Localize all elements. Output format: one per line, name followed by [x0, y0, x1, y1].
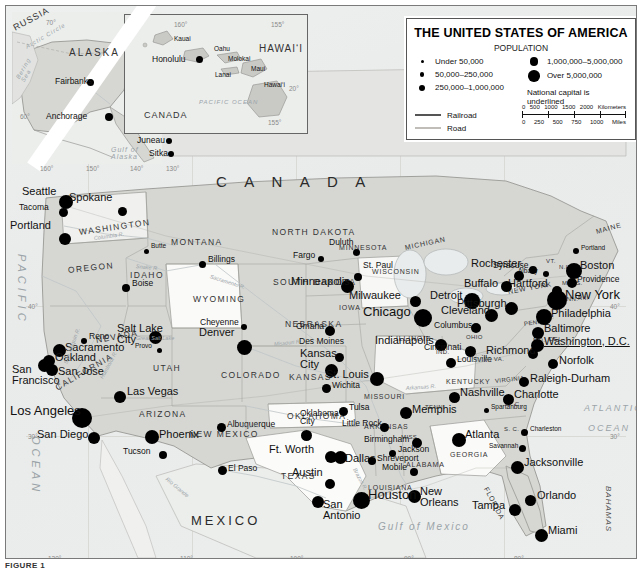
city-dot[interactable]: [241, 324, 247, 330]
city-dot[interactable]: [237, 340, 252, 355]
city-dot[interactable]: [449, 392, 460, 403]
city-label: Birmingham: [364, 435, 409, 444]
city-dot[interactable]: [218, 466, 227, 475]
population-dot-icon: [527, 70, 541, 82]
city-dot[interactable]: [484, 408, 489, 413]
city-dot[interactable]: [118, 207, 127, 216]
city-dot[interactable]: [144, 249, 149, 254]
city-dot[interactable]: [400, 407, 412, 419]
city-dot[interactable]: [410, 468, 418, 476]
city-dot[interactable]: [514, 271, 524, 281]
city-dot[interactable]: [354, 273, 362, 281]
inset-city-label: Juneau: [137, 136, 165, 145]
city-dot[interactable]: [325, 326, 335, 336]
inset-city-label: Sitka: [149, 149, 168, 158]
city-dot[interactable]: [532, 327, 544, 339]
city-dot[interactable]: [521, 429, 528, 436]
inset-label-pacific-ocean: PACIFIC OCEAN: [199, 99, 258, 105]
city-dot[interactable]: [301, 430, 312, 441]
city-dot[interactable]: [548, 359, 558, 369]
city-dot[interactable]: [414, 309, 432, 327]
city-dot[interactable]: [199, 261, 206, 268]
city-dot[interactable]: [519, 445, 526, 452]
city-dot[interactable]: [535, 529, 548, 542]
inset-label-alaska: ALASKA: [69, 48, 120, 58]
inset-coord-label: 155°: [271, 22, 284, 29]
latitude-tick: 30°: [28, 434, 38, 441]
city-dot[interactable]: [318, 256, 324, 262]
city-label: Boise: [132, 279, 153, 288]
city-dot[interactable]: [322, 384, 331, 393]
city-dot[interactable]: [59, 233, 71, 245]
city-label: Rochester: [471, 258, 521, 269]
city-dot[interactable]: [509, 504, 521, 516]
city-dot[interactable]: [88, 432, 100, 444]
population-dot-icon: [415, 85, 429, 91]
city-dot[interactable]: [519, 377, 529, 387]
city-dot[interactable]: [410, 296, 421, 307]
city-dot[interactable]: [573, 248, 579, 254]
city-label: Richmond: [486, 345, 536, 356]
city-dot[interactable]: [567, 278, 577, 288]
city-dot[interactable]: [114, 391, 126, 403]
inset-city-dot[interactable]: [166, 138, 172, 144]
city-dot[interactable]: [552, 286, 562, 296]
sea-label-gulf-of-mexico: Gulf of Mexico: [378, 522, 470, 532]
inset-island-label: Hawai‘i: [264, 82, 285, 89]
city-label: Tacoma: [19, 203, 49, 212]
city-dot[interactable]: [511, 461, 524, 474]
inset-city-dot[interactable]: [196, 56, 203, 63]
city-dot[interactable]: [122, 284, 130, 292]
legend-column-left: Under 50,000 50,000–250,000 250,000–1,00…: [415, 57, 521, 106]
map-frame[interactable]: THE UNITED STATES OF AMERICA POPULATION …: [5, 5, 637, 559]
city-dot[interactable]: [531, 339, 544, 352]
city-dot[interactable]: [446, 358, 456, 368]
capital-note: National capital is underlined: [527, 88, 627, 106]
city-dot[interactable]: [501, 281, 512, 292]
city-dot[interactable]: [145, 430, 159, 444]
city-dot[interactable]: [471, 323, 481, 333]
city-dot[interactable]: [536, 309, 552, 325]
map-legend[interactable]: THE UNITED STATES OF AMERICA POPULATION …: [406, 18, 636, 140]
city-dot[interactable]: [59, 208, 68, 217]
city-label: Milwaukee: [349, 290, 401, 301]
city-label: Norfolk: [559, 355, 594, 366]
city-dot[interactable]: [452, 433, 466, 447]
legend-line-1-label: Road: [447, 124, 466, 133]
scale-mi-4: 1000: [590, 119, 603, 125]
state-label: IOWA: [339, 304, 361, 311]
city-dot[interactable]: [368, 457, 376, 465]
legend-class-4-label: Over 5,000,000: [547, 71, 602, 80]
city-dot[interactable]: [159, 451, 167, 459]
city-dot[interactable]: [353, 249, 360, 256]
state-label: KENTUCKY: [446, 378, 491, 385]
city-dot[interactable]: [325, 479, 335, 489]
city-dot[interactable]: [157, 348, 162, 353]
city-dot[interactable]: [503, 394, 514, 405]
legend-class-3: 1,000,000–5,000,000: [527, 57, 627, 66]
scale-mi-unit: Miles: [612, 119, 626, 125]
inset-city-dot[interactable]: [105, 113, 113, 121]
city-dot[interactable]: [525, 495, 536, 506]
city-label: Washington, D.C.: [544, 336, 630, 347]
state-label: WYOMING: [193, 295, 245, 304]
inset-city-dot[interactable]: [168, 151, 174, 157]
inset-coord-label: 130°: [166, 166, 179, 173]
city-label: Miami: [548, 525, 577, 536]
city-dot[interactable]: [529, 266, 537, 274]
city-label: Fargo: [293, 251, 315, 260]
latitude-tick-right: 30°: [610, 434, 620, 441]
legend-class-0-label: Under 50,000: [435, 57, 483, 66]
legend-class-3-label: 1,000,000–5,000,000: [547, 57, 623, 66]
city-dot[interactable]: [217, 423, 226, 432]
city-label: Tucson: [123, 447, 151, 456]
inset-coord-label: 140°: [130, 166, 143, 173]
longitude-tick: 120°: [48, 556, 61, 559]
country-label-canada: C A N A D A: [216, 174, 372, 189]
figure-caption: FIGURE 1: [5, 561, 635, 572]
city-dot[interactable]: [543, 271, 549, 277]
inset-city-label: Honolulu: [152, 55, 186, 64]
city-dot[interactable]: [325, 451, 337, 463]
country-label-mexico: MEXICO: [191, 514, 260, 527]
city-dot[interactable]: [370, 372, 384, 386]
